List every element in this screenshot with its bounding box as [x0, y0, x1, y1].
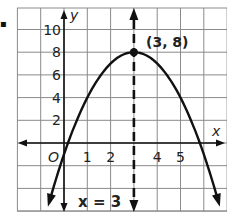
y-tick-label: 6: [52, 67, 61, 83]
x-axis-right-arrow-icon: [216, 140, 225, 147]
symmetry-up-arrow-icon: [129, 8, 138, 20]
x-tick-label: 2: [106, 149, 115, 165]
y-tick-label: 2: [52, 112, 61, 128]
curve-left-arrow-icon: [47, 193, 56, 207]
vertex-label: (3, 8): [146, 34, 188, 50]
x-axis-label: x: [211, 123, 221, 139]
symmetry-label: x = 3: [78, 193, 121, 211]
x-axis-left-arrow-icon: [18, 140, 27, 147]
grid: [17, 8, 227, 211]
x-tick-label: 5: [176, 149, 185, 165]
axes: [18, 10, 225, 212]
curve-right-arrow-icon: [212, 193, 221, 207]
y-axis-label: y: [69, 7, 79, 23]
symmetry-down-arrow-icon: [129, 200, 138, 212]
y-axis-up-arrow-icon: [61, 10, 68, 19]
vertex-point: [130, 48, 138, 56]
axis-of-symmetry: [129, 8, 138, 212]
y-tick-label: 10: [43, 22, 61, 38]
parabola-graph: (3, 8) x y O 1245246810 x = 3: [0, 0, 227, 223]
origin-label: O: [48, 149, 59, 165]
x-tick-label: 4: [153, 149, 162, 165]
y-tick-label: 4: [52, 90, 61, 106]
x-tick-label: 1: [83, 149, 92, 165]
y-tick-label: 8: [52, 44, 61, 60]
